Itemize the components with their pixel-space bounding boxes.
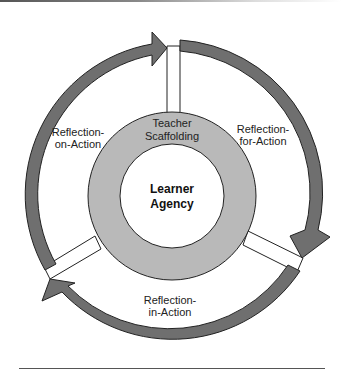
ring-label-line1: Teacher	[152, 117, 191, 129]
stage-label-for-action-line2: for-Action	[239, 135, 286, 147]
spoke-top	[167, 46, 180, 116]
stage-label-for-action-line1: Reflection-	[237, 123, 290, 135]
center-label-line1: Learner	[150, 182, 194, 196]
ring-label-line2: Scaffolding	[145, 130, 199, 142]
stage-label-in-action-line2: in-Action	[149, 306, 192, 318]
stage-label-on-action-line2: on-Action	[55, 138, 101, 150]
stage-label-on-action-line1: Reflection-	[52, 126, 105, 138]
learner-agency-core	[120, 144, 224, 248]
stage-label-in-action-line1: Reflection-	[144, 294, 197, 306]
center-label-line2: Agency	[150, 197, 194, 211]
reflection-cycle-diagram: Teacher Scaffolding Learner Agency Refle…	[0, 0, 341, 372]
bottom-rule	[19, 368, 325, 369]
